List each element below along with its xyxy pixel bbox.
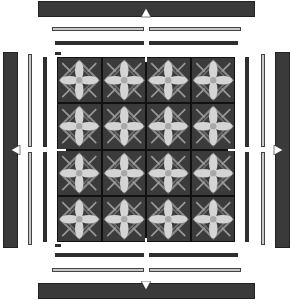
bottom-middle-bar-left bbox=[52, 268, 144, 272]
tile bbox=[58, 151, 101, 195]
tile bbox=[103, 151, 146, 195]
tile bbox=[103, 58, 146, 102]
tile bbox=[103, 104, 146, 148]
left-inner-bar-top bbox=[43, 57, 47, 147]
bottom-inner-bar-right bbox=[149, 253, 238, 257]
left-middle-bar-top bbox=[28, 54, 32, 147]
tile bbox=[192, 151, 235, 195]
tile bbox=[147, 151, 190, 195]
tile bbox=[192, 58, 235, 102]
quatrefoil-tile-icon bbox=[147, 104, 190, 148]
quatrefoil-tile-icon bbox=[192, 58, 235, 102]
tile bbox=[147, 58, 190, 102]
arrow-up-shaft bbox=[145, 14, 147, 62]
right-middle-bar-top bbox=[261, 54, 265, 147]
quatrefoil-tile-icon bbox=[58, 197, 101, 241]
top-inner-bar-right bbox=[149, 41, 238, 45]
quatrefoil-tile-icon bbox=[103, 58, 146, 102]
tile bbox=[58, 104, 101, 148]
arrow-up-icon bbox=[141, 8, 151, 18]
quatrefoil-tile-icon bbox=[147, 197, 190, 241]
right-inner-bar-top bbox=[245, 57, 249, 147]
quatrefoil-tile-icon bbox=[103, 151, 146, 195]
tile bbox=[103, 197, 146, 241]
arrow-down-shaft bbox=[145, 238, 147, 286]
quatrefoil-tile-icon bbox=[147, 58, 190, 102]
top-middle-bar-left bbox=[52, 27, 144, 31]
tile bbox=[147, 197, 190, 241]
top-middle-bar-right bbox=[149, 27, 241, 31]
quatrefoil-tile-icon bbox=[58, 58, 101, 102]
bottom-inner-bar-left bbox=[55, 253, 144, 257]
top-inner-bar-left bbox=[55, 41, 144, 45]
tile bbox=[58, 197, 101, 241]
left-middle-bar-bottom bbox=[28, 152, 32, 245]
tile bbox=[192, 197, 235, 241]
quatrefoil-tile-icon bbox=[58, 104, 101, 148]
corner-block-bl bbox=[55, 244, 61, 247]
tile bbox=[58, 58, 101, 102]
quatrefoil-tile-icon bbox=[103, 197, 146, 241]
tile bbox=[147, 104, 190, 148]
tile bbox=[192, 104, 235, 148]
right-inner-bar-bottom bbox=[245, 152, 249, 242]
quatrefoil-tile-icon bbox=[192, 151, 235, 195]
arrow-down-icon bbox=[141, 281, 151, 291]
arrow-right-icon bbox=[273, 145, 283, 155]
quatrefoil-tile-icon bbox=[58, 151, 101, 195]
arrow-right-shaft bbox=[228, 149, 278, 151]
left-inner-bar-bottom bbox=[43, 152, 47, 242]
quatrefoil-tile-icon bbox=[103, 104, 146, 148]
bottom-middle-bar-right bbox=[149, 268, 241, 272]
quatrefoil-tile-icon bbox=[192, 104, 235, 148]
corner-block-tl bbox=[55, 52, 61, 55]
arrow-left-icon bbox=[11, 145, 21, 155]
right-middle-bar-bottom bbox=[261, 152, 265, 245]
quatrefoil-tile-icon bbox=[147, 151, 190, 195]
arrow-left-shaft bbox=[16, 149, 66, 151]
quatrefoil-tile-icon bbox=[192, 197, 235, 241]
tile-grid bbox=[57, 57, 235, 242]
